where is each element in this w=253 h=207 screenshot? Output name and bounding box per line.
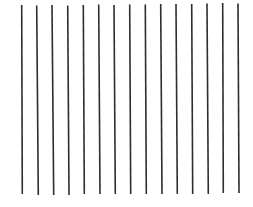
vertical-line-14 — [223, 3, 224, 193]
vertical-line-9 — [145, 5, 146, 195]
vertical-line-5 — [83, 5, 84, 194]
vertical-line-12 — [192, 4, 193, 194]
vertical-lines-figure — [0, 0, 253, 207]
vertical-line-8 — [130, 5, 131, 195]
vertical-line-15 — [238, 4, 239, 194]
vertical-line-1 — [22, 5, 23, 194]
